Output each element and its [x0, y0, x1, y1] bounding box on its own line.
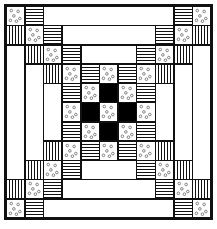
quilt-piece-vstripe [174, 45, 193, 65]
quilt-piece-dot [43, 160, 62, 180]
quilt-piece-dot [174, 25, 193, 45]
quilt-piece-white [43, 6, 174, 26]
quilt-piece-hstripe [174, 6, 193, 26]
quilt-piece-vstripe [6, 25, 25, 45]
dot-pattern-icon [26, 180, 43, 198]
quilt-piece-white [62, 179, 156, 199]
quilt-piece-dot [25, 179, 44, 199]
quilt-piece-hstripe [81, 64, 100, 84]
quilt-piece-hstripe [136, 122, 155, 142]
dot-pattern-icon [175, 26, 192, 44]
quilt-piece-vstripe [155, 141, 174, 161]
dot-pattern-icon [82, 84, 99, 102]
quilt-piece-white [174, 64, 193, 161]
quilt-piece-vstripe [43, 141, 62, 161]
quilt-piece-dot [192, 6, 211, 26]
quilt-piece-white [81, 45, 137, 65]
dot-pattern-icon [156, 46, 173, 64]
quilt-piece-dot [99, 141, 118, 161]
quilt-piece-hstripe [155, 179, 174, 199]
quilt-piece-dot [136, 102, 155, 122]
dot-pattern-icon [63, 142, 80, 160]
quilt-piece-vstripe [174, 160, 193, 180]
quilt-piece-dot [99, 102, 118, 122]
dot-pattern-icon [7, 200, 24, 218]
quilt-piece-vstripe [25, 45, 44, 65]
quilt-piece-dot [62, 141, 81, 161]
quilt-piece-dot [6, 199, 25, 219]
quilt-piece-black [81, 102, 100, 122]
dot-pattern-icon [44, 46, 61, 64]
quilt-piece-hstripe [174, 199, 193, 219]
quilt-piece-hstripe [43, 25, 62, 45]
quilt-piece-dot [174, 179, 193, 199]
dot-pattern-icon [63, 65, 80, 83]
quilt-piece-dot [136, 141, 155, 161]
quilt-piece-white [6, 45, 25, 180]
quilt-piece-black [99, 122, 118, 142]
quilt-piece-vstripe [192, 179, 211, 199]
quilt-piece-dot [99, 64, 118, 84]
quilt-piece-hstripe [155, 25, 174, 45]
quilt-piece-white [155, 83, 174, 141]
quilt-piece-hstripe [136, 160, 155, 180]
quilt-piece-hstripe [43, 179, 62, 199]
quilt-piece-dot [118, 83, 137, 103]
quilt-piece-white [192, 45, 211, 180]
dot-pattern-icon [137, 142, 154, 160]
quilt-piece-hstripe [25, 199, 44, 219]
dot-pattern-icon [137, 65, 154, 83]
dot-pattern-icon [193, 7, 210, 25]
dot-pattern-icon [119, 123, 136, 141]
quilt-piece-hstripe [81, 141, 100, 161]
quilt-piece-hstripe [62, 83, 81, 103]
dot-pattern-icon [7, 7, 24, 25]
dot-pattern-icon [175, 180, 192, 198]
quilt-piece-dot [155, 45, 174, 65]
quilt-piece-dot [136, 64, 155, 84]
quilt-piece-white [62, 25, 156, 45]
quilt-piece-hstripe [62, 160, 81, 180]
dot-pattern-icon [156, 161, 173, 179]
quilt-piece-black [99, 83, 118, 103]
quilt-piece-black [118, 102, 137, 122]
quilt-piece-dot [81, 122, 100, 142]
quilt-piece-hstripe [136, 83, 155, 103]
dot-pattern-icon [26, 26, 43, 44]
dot-pattern-icon [137, 103, 154, 121]
quilt-piece-dot [192, 199, 211, 219]
quilt-piece-vstripe [25, 160, 44, 180]
quilt-piece-hstripe [136, 45, 155, 65]
dot-pattern-icon [119, 84, 136, 102]
quilt-piece-white [25, 64, 44, 161]
quilt-piece-vstripe [155, 64, 174, 84]
quilt-piece-dot [118, 122, 137, 142]
dot-pattern-icon [100, 103, 117, 121]
quilt-piece-dot [6, 6, 25, 26]
quilt-piece-hstripe [118, 64, 137, 84]
dot-pattern-icon [100, 65, 117, 83]
dot-pattern-icon [100, 142, 117, 160]
dot-pattern-icon [82, 123, 99, 141]
quilt-piece-dot [62, 64, 81, 84]
quilt-piece-dot [25, 25, 44, 45]
quilt-piece-hstripe [62, 45, 81, 65]
quilt-block [4, 4, 213, 220]
quilt-piece-vstripe [6, 179, 25, 199]
quilt-piece-vstripe [43, 64, 62, 84]
dot-pattern-icon [44, 161, 61, 179]
quilt-piece-hstripe [118, 141, 137, 161]
quilt-piece-white [43, 83, 62, 141]
quilt-piece-dot [155, 160, 174, 180]
quilt-piece-vstripe [192, 25, 211, 45]
dot-pattern-icon [193, 200, 210, 218]
quilt-piece-dot [81, 83, 100, 103]
quilt-piece-hstripe [25, 6, 44, 26]
quilt-piece-dot [62, 102, 81, 122]
quilt-piece-hstripe [62, 122, 81, 142]
quilt-piece-dot [43, 45, 62, 65]
dot-pattern-icon [63, 103, 80, 121]
quilt-piece-white [81, 160, 137, 180]
quilt-piece-white [43, 199, 174, 219]
